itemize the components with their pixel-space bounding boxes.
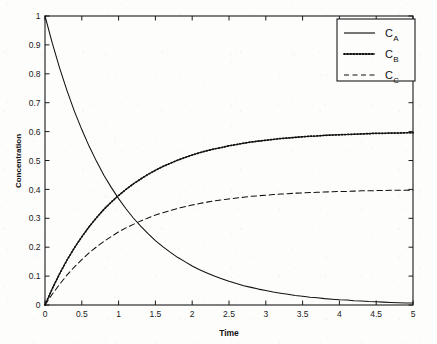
y-tick-label: 1	[36, 11, 41, 21]
y-tick-label: 0.5	[29, 156, 41, 166]
concentration-vs-time-chart: 00.511.522.533.544.55 00.10.20.30.40.50.…	[0, 0, 437, 344]
x-tick-label: 1	[116, 309, 121, 319]
x-tick-label: 0	[43, 309, 48, 319]
x-tick-label: 0.5	[76, 309, 88, 319]
x-tick-label: 2	[190, 309, 195, 319]
chart-legend: CACBCC	[337, 19, 415, 85]
figure-canvas: 00.511.522.533.544.55 00.10.20.30.40.50.…	[0, 0, 437, 344]
y-tick-label: 0.7	[29, 98, 41, 108]
y-tick-label: 0	[36, 300, 41, 310]
y-tick-label: 0.1	[29, 271, 41, 281]
y-tick-label: 0.9	[29, 40, 41, 50]
y-tick-label: 0.2	[29, 242, 41, 252]
x-tick-label: 3	[263, 309, 268, 319]
x-tick-label: 3.5	[297, 309, 309, 319]
x-tick-label: 4	[337, 309, 342, 319]
x-tick-label: 1.5	[149, 309, 161, 319]
x-axis-title: Time	[219, 328, 239, 338]
y-tick-label: 0.3	[29, 213, 41, 223]
x-tick-label: 2.5	[223, 309, 235, 319]
y-tick-label: 0.4	[29, 185, 41, 195]
y-axis-title: Concentration	[14, 134, 23, 188]
y-tick-label: 0.6	[29, 127, 41, 137]
legend-box	[337, 19, 415, 81]
x-tick-label: 4.5	[370, 309, 382, 319]
y-tick-label: 0.8	[29, 69, 41, 79]
x-tick-label: 5	[411, 309, 416, 319]
